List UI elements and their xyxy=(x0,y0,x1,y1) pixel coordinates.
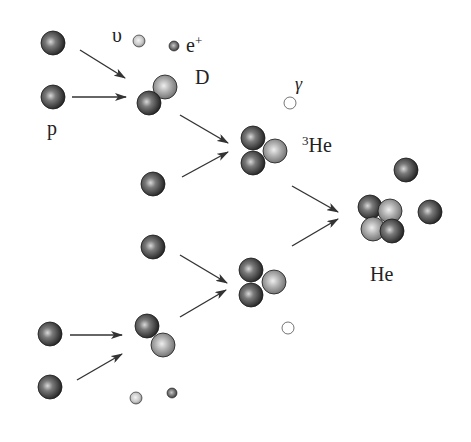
proton-icon xyxy=(141,172,165,196)
proton-icon xyxy=(418,200,442,224)
pp-chain-diagram xyxy=(0,0,471,442)
arrow-icon xyxy=(292,219,338,246)
arrow-icon xyxy=(80,50,125,78)
positron-sup: + xyxy=(195,33,202,48)
neutron-icon xyxy=(151,333,175,357)
label-neutrino-top: υ xyxy=(112,25,122,45)
proton-icon xyxy=(239,258,263,282)
gamma-icon xyxy=(284,97,296,109)
neutron-icon xyxy=(263,139,287,163)
arrow-icon xyxy=(77,354,122,380)
proton-icon xyxy=(135,314,159,338)
proton-icon xyxy=(241,151,265,175)
proton-icon xyxy=(41,85,65,109)
arrow-icon xyxy=(292,186,338,212)
arrow-icon xyxy=(180,255,227,283)
arrow-icon xyxy=(180,115,228,143)
neutron-icon xyxy=(262,270,286,294)
positron-base: e xyxy=(186,34,195,56)
proton-icon xyxy=(38,322,62,346)
proton-icon xyxy=(239,283,263,307)
particles xyxy=(38,31,442,404)
arrow-icon xyxy=(180,290,226,317)
proton-icon xyxy=(380,219,404,243)
proton-icon xyxy=(141,235,165,259)
label-proton: p xyxy=(47,118,57,138)
neutrino-icon xyxy=(133,35,145,47)
label-helium4: He xyxy=(370,264,393,284)
proton-icon xyxy=(38,375,62,399)
gamma-icon xyxy=(282,322,294,334)
label-gamma: γ xyxy=(295,75,302,93)
arrow-icon xyxy=(182,152,228,177)
positron-icon xyxy=(169,41,179,51)
proton-icon xyxy=(394,158,418,182)
reaction-arrows xyxy=(70,50,338,380)
proton-icon xyxy=(241,126,265,150)
helium3-symbol: He xyxy=(309,134,332,156)
label-deuteron: D xyxy=(195,67,209,87)
label-helium3: 3He xyxy=(302,134,332,155)
positron-icon xyxy=(167,388,177,398)
proton-icon xyxy=(41,31,65,55)
neutrino-icon xyxy=(130,392,142,404)
proton-icon xyxy=(137,91,161,115)
label-positron: e+ xyxy=(186,34,202,55)
